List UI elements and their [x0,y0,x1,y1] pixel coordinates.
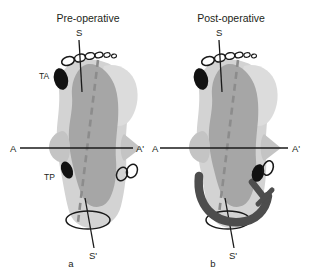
axis-label-s-a: S [76,27,82,38]
ta-label-a: TA [39,71,50,81]
panel-b-letter: b [210,258,215,269]
tp-label-a: TP [44,172,55,182]
axis-label-a-prime-b: A' [292,143,300,154]
axis-label-s-prime-b: S' [229,250,237,261]
axis-label-a-left-b: A [152,143,159,154]
figure-background [0,0,321,279]
panel-b-title: Post-operative [197,12,265,24]
axis-label-a-prime-a: A' [136,143,144,154]
axis-label-a-left-a: A [10,143,17,154]
axis-label-s-b: S [216,27,222,38]
panel-a-title: Pre-operative [56,12,119,24]
axis-label-s-prime-a: S' [89,250,97,261]
figure-canvas: Pre-operative S S' A A' [0,0,321,279]
panel-a-letter: a [68,258,74,269]
